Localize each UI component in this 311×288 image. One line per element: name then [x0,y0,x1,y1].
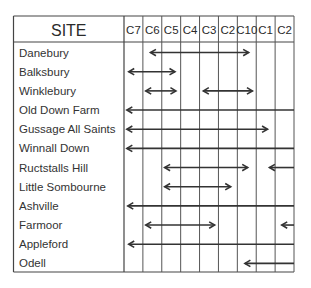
site-name-label: Balksbury [19,66,70,78]
period-header-label: C7 [126,24,141,36]
period-header-label: C10 [236,24,257,36]
site-row: Farmoor [19,219,294,231]
site-row: Odell [19,257,294,269]
site-chronology-chart: SITEC7C6C5C4C3C2C10C1C2 DaneburyBalksbur… [0,0,311,288]
site-rows: DaneburyBalksburyWinkleburyOld Down Farm… [19,47,294,270]
site-name-label: Farmoor [19,219,63,231]
site-row: Balksbury [19,66,175,78]
site-row: Ructstalls Hill [19,162,294,174]
site-name-label: Winnall Down [19,142,89,154]
period-header-label: C2 [277,24,292,36]
period-header-label: C6 [145,24,160,36]
site-row: Winklebury [19,85,252,97]
site-row: Winnall Down [19,142,294,154]
site-row: Old Down Farm [19,104,294,116]
period-header-label: C5 [164,24,179,36]
site-name-label: Appleford [19,238,68,250]
site-header-label: SITE [51,22,87,39]
site-name-label: Ashville [19,200,59,212]
site-name-label: Danebury [19,47,69,59]
site-row: Ashville [19,200,294,212]
period-header-label: C2 [221,24,236,36]
site-name-label: Winklebury [19,85,76,97]
site-name-label: Little Sombourne [19,181,106,193]
site-name-label: Gussage All Saints [19,123,116,135]
site-row: Danebury [19,47,249,59]
site-row: Little Sombourne [19,181,231,193]
site-name-label: Ructstalls Hill [19,162,88,174]
site-name-label: Odell [19,257,46,269]
site-row: Appleford [19,238,294,250]
site-name-label: Old Down Farm [19,104,100,116]
period-header-label: C4 [183,24,198,36]
period-header-label: C1 [258,24,273,36]
period-header-label: C3 [202,24,217,36]
